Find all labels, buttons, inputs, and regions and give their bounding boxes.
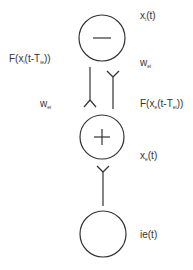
- input-to-excitatory-connection: [97, 166, 109, 206]
- inhibitory-output-function-label: F(xi(t-Tie)): [9, 53, 51, 68]
- input-node: [80, 211, 126, 257]
- excitatory-node-label: xe(t): [140, 150, 157, 165]
- inhibitory-node-label: xi(t): [140, 10, 156, 25]
- excitatory-output-function-label: F(xe(t-Tei)): [140, 98, 183, 113]
- plus-icon: [94, 129, 110, 145]
- circuit-diagram: [0, 0, 193, 270]
- excitatory-to-inhibitory-connection: [107, 71, 119, 109]
- weight-label-left: wei: [40, 98, 51, 113]
- inhibitory-to-excitatory-connection: [84, 67, 96, 107]
- weight-label-right: wei: [140, 57, 151, 72]
- input-node-label: ie(t): [140, 229, 157, 241]
